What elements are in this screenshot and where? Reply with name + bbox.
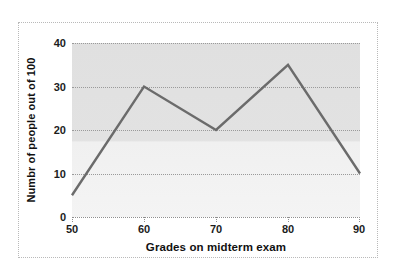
data-series-line bbox=[72, 43, 360, 217]
xtick-mark-70 bbox=[216, 217, 217, 222]
xtick-label-80: 80 bbox=[282, 224, 294, 235]
ytick-label-20: 20 bbox=[54, 125, 66, 136]
x-axis-tick-labels: 50 60 70 80 90 bbox=[72, 224, 360, 240]
xtick-mark-80 bbox=[288, 217, 289, 222]
xtick-mark-90 bbox=[359, 217, 360, 222]
xtick-label-70: 70 bbox=[210, 224, 222, 235]
xtick-label-60: 60 bbox=[138, 224, 150, 235]
y-axis-tick-labels: 40 30 20 10 0 bbox=[40, 43, 66, 217]
xtick-mark-50 bbox=[72, 217, 73, 222]
y-axis-title-text: Numbr of people out of 100 bbox=[24, 58, 36, 203]
ytick-label-0: 0 bbox=[60, 212, 66, 223]
chart-figure: 40 30 20 10 0 50 60 70 80 90 Numbr of pe… bbox=[0, 0, 399, 276]
ytick-label-10: 10 bbox=[54, 169, 66, 180]
xtick-label-90: 90 bbox=[353, 224, 365, 235]
series-polyline bbox=[72, 65, 360, 196]
xtick-mark-60 bbox=[144, 217, 145, 222]
ytick-label-40: 40 bbox=[54, 38, 66, 49]
ytick-label-30: 30 bbox=[54, 82, 66, 93]
plot-area bbox=[72, 43, 360, 217]
y-axis-title: Numbr of people out of 100 bbox=[21, 43, 39, 217]
xtick-label-50: 50 bbox=[66, 224, 78, 235]
x-axis-title: Grades on midterm exam bbox=[72, 241, 360, 253]
